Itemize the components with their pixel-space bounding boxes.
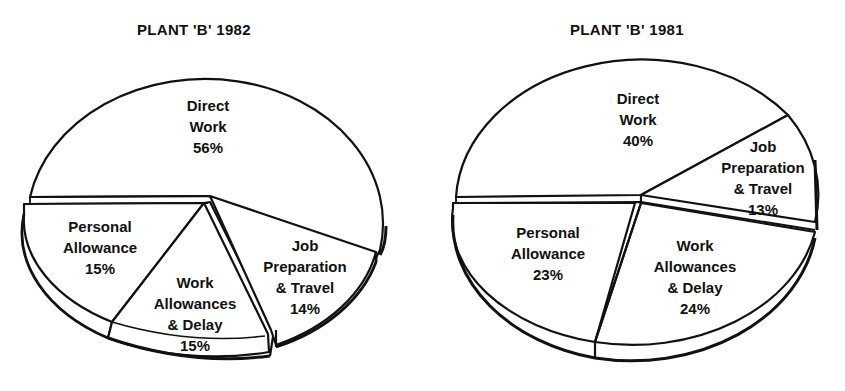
label-personal-allowance-1982: PersonalAllowance15%	[40, 216, 160, 279]
label-work-allowances-1981: WorkAllowances& Delay24%	[635, 235, 755, 319]
chart-title-1982: PLANT 'B' 1982	[137, 21, 251, 38]
label-job-preparation-1981: JobPreparation& Travel13%	[708, 136, 818, 220]
pie-chart-1982: PLANT 'B' 1982 DirectWork56% PersonalAll…	[0, 0, 422, 391]
label-work-allowances-1982: WorkAllowances& Delay15%	[140, 272, 250, 356]
chart-title-1981: PLANT 'B' 1981	[570, 21, 684, 38]
label-direct-work-1982: DirectWork56%	[168, 95, 248, 158]
label-job-preparation-1982: JobPreparation& Travel14%	[250, 235, 360, 319]
label-personal-allowance-1981: PersonalAllowance23%	[488, 222, 608, 285]
pie-chart-1981: PLANT 'B' 1981 DirectWork40% JobPreparat…	[423, 0, 845, 391]
label-direct-work-1981: DirectWork40%	[598, 88, 678, 151]
